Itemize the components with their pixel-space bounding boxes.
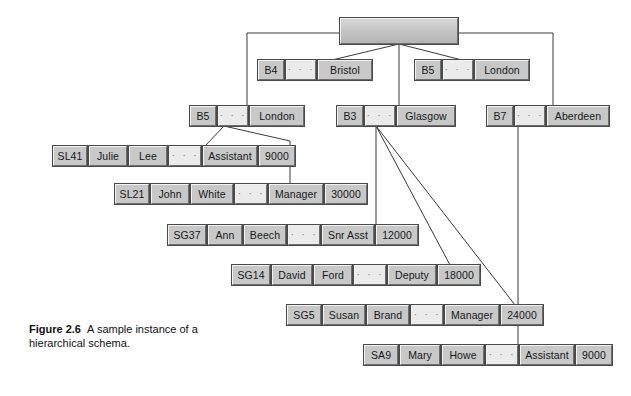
staff-ellipsis-cell: · · · (486, 345, 518, 365)
staff-field-cell-1: David (272, 265, 312, 285)
branch-ellipsis-cell: · · · (365, 106, 395, 126)
staff-field-cell-2: White (191, 184, 233, 204)
record-staff-sa9: SA9MaryHowe· · ·Assistant9000 (364, 345, 612, 365)
staff-ellipsis-cell: · · · (235, 184, 267, 204)
record-staff-sl41: SL41JulieLee· · ·Assistant9000 (53, 146, 295, 166)
staff-field-cell-5: 12000 (376, 225, 418, 245)
staff-field-cell-0: SG5 (287, 305, 321, 325)
staff-field-cell-0: SA9 (364, 345, 398, 365)
staff-field-cell-5: 9000 (259, 146, 295, 166)
branch-ellipsis-cell: · · · (286, 60, 316, 80)
staff-field-cell-2: Ford (314, 265, 352, 285)
staff-field-cell-1: Julie (89, 146, 127, 166)
staff-field-cell-1: Susan (323, 305, 365, 325)
branch-city-cell: Glasgow (397, 106, 455, 126)
staff-field-cell-4: Assistant (520, 345, 574, 365)
line-root-to-b4-bristol (332, 44, 399, 60)
staff-field-cell-5: 30000 (325, 184, 367, 204)
staff-field-cell-4: Snr Asst (322, 225, 374, 245)
line-b5-to-sl41 (205, 126, 224, 146)
staff-field-cell-0: SL21 (115, 184, 149, 204)
staff-field-cell-2: Howe (442, 345, 484, 365)
staff-field-cell-1: John (151, 184, 189, 204)
staff-field-cell-4: Deputy (388, 265, 436, 285)
staff-field-cell-0: SL41 (53, 146, 87, 166)
branch-city-cell: London (475, 60, 529, 80)
record-branch-b5a: B5· · ·London (415, 60, 529, 80)
hierarchical-schema-figure: B4· · ·BristolB5· · ·LondonB5· · ·London… (0, 0, 631, 396)
staff-field-cell-2: Beech (244, 225, 286, 245)
staff-field-cell-2: Brand (367, 305, 409, 325)
branch-code-cell: B3 (337, 106, 363, 126)
staff-field-cell-1: Mary (400, 345, 440, 365)
figure-caption-label: Figure 2.6 (29, 323, 81, 335)
branch-code-cell: B4 (258, 60, 284, 80)
staff-field-cell-5: 9000 (576, 345, 612, 365)
branch-city-cell: Aberdeen (547, 106, 609, 126)
branch-code-cell: B7 (487, 106, 513, 126)
record-branch-b5b: B5· · ·London (190, 106, 304, 126)
staff-field-cell-5: 24000 (501, 305, 543, 325)
branch-code-cell: B5 (415, 60, 441, 80)
record-staff-sl21: SL21JohnWhite· · ·Manager30000 (115, 184, 367, 204)
branch-ellipsis-cell: · · · (218, 106, 248, 126)
record-root (340, 18, 458, 44)
record-staff-sg14: SG14DavidFord· · ·Deputy18000 (232, 265, 480, 285)
record-branch-b4: B4· · ·Bristol (258, 60, 372, 80)
branch-ellipsis-cell: · · · (515, 106, 545, 126)
staff-field-cell-0: SG37 (168, 225, 206, 245)
record-staff-sg5: SG5SusanBrand· · ·Manager24000 (287, 305, 543, 325)
staff-field-cell-1: Ann (208, 225, 242, 245)
figure-caption: Figure 2.6 A sample instance of a hierar… (29, 322, 199, 350)
root-segment-cell (340, 18, 458, 44)
record-branch-b3: B3· · ·Glasgow (337, 106, 455, 126)
line-root-to-b5-london-upper (399, 44, 462, 60)
staff-ellipsis-cell: · · · (411, 305, 443, 325)
staff-field-cell-0: SG14 (232, 265, 270, 285)
branch-city-cell: London (250, 106, 304, 126)
staff-field-cell-5: 18000 (438, 265, 480, 285)
branch-ellipsis-cell: · · · (443, 60, 473, 80)
branch-code-cell: B5 (190, 106, 216, 126)
branch-city-cell: Bristol (318, 60, 372, 80)
staff-field-cell-4: Manager (269, 184, 323, 204)
record-branch-b7: B7· · ·Aberdeen (487, 106, 609, 126)
staff-ellipsis-cell: · · · (288, 225, 320, 245)
staff-field-cell-2: Lee (129, 146, 167, 166)
staff-ellipsis-cell: · · · (169, 146, 201, 166)
staff-field-cell-4: Assistant (203, 146, 257, 166)
staff-ellipsis-cell: · · · (354, 265, 386, 285)
record-staff-sg37: SG37AnnBeech· · ·Snr Asst12000 (168, 225, 418, 245)
staff-field-cell-4: Manager (445, 305, 499, 325)
